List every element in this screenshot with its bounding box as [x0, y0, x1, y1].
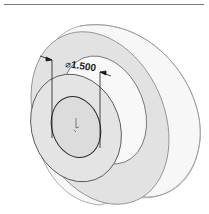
cad-drawing: [0, 0, 209, 214]
